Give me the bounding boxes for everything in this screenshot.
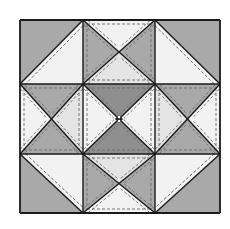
- center-dot: [118, 116, 121, 119]
- center-dot: [118, 120, 121, 123]
- quilt-diagram: [0, 0, 230, 229]
